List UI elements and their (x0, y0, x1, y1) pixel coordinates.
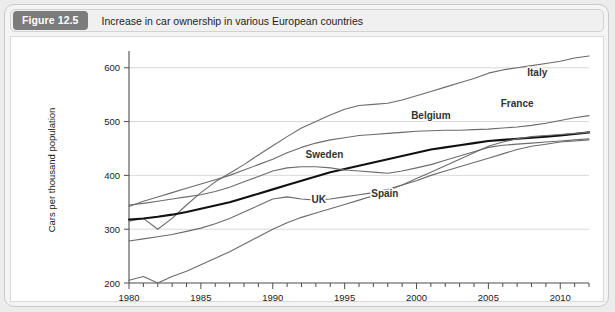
series-label-sweden: Sweden (306, 149, 344, 160)
y-tick-label: 400 (104, 170, 120, 181)
figure-number-badge: Figure 12.5 (13, 11, 88, 30)
chart-panel: 2003004005006001980198519901995200020052… (10, 36, 604, 302)
x-tick-label: 1985 (190, 292, 211, 301)
figure-caption: Increase in car ownership in various Eur… (102, 15, 363, 27)
y-tick-label: 300 (104, 224, 120, 235)
series-line-spain (129, 132, 589, 283)
series-line-uk (129, 140, 589, 241)
figure-header: Figure 12.5 Increase in car ownership in… (10, 9, 604, 32)
series-label-france: France (501, 98, 534, 109)
series-line-italy (129, 56, 589, 229)
series-label-belgium: Belgium (411, 110, 451, 121)
series-label-spain: Spain (371, 188, 398, 199)
y-axis-title: Cars per thousand population (46, 108, 57, 233)
series-label-italy: Italy (527, 67, 547, 78)
x-tick-label: 1990 (262, 292, 283, 301)
x-tick-label: 2000 (406, 292, 427, 301)
series-label-uk: UK (312, 194, 327, 205)
x-tick-label: 2010 (550, 292, 571, 301)
y-tick-label: 600 (104, 62, 120, 73)
y-tick-label: 200 (104, 278, 120, 289)
series-line-belgium (129, 132, 589, 219)
x-tick-label: 1995 (334, 292, 355, 301)
y-tick-label: 500 (104, 116, 120, 127)
x-tick-label: 1980 (118, 292, 139, 301)
figure-root: Figure 12.5 Increase in car ownership in… (0, 0, 615, 312)
series-line-france (129, 116, 589, 207)
x-tick-label: 2005 (478, 292, 499, 301)
line-chart: 2003004005006001980198519901995200020052… (11, 37, 603, 301)
